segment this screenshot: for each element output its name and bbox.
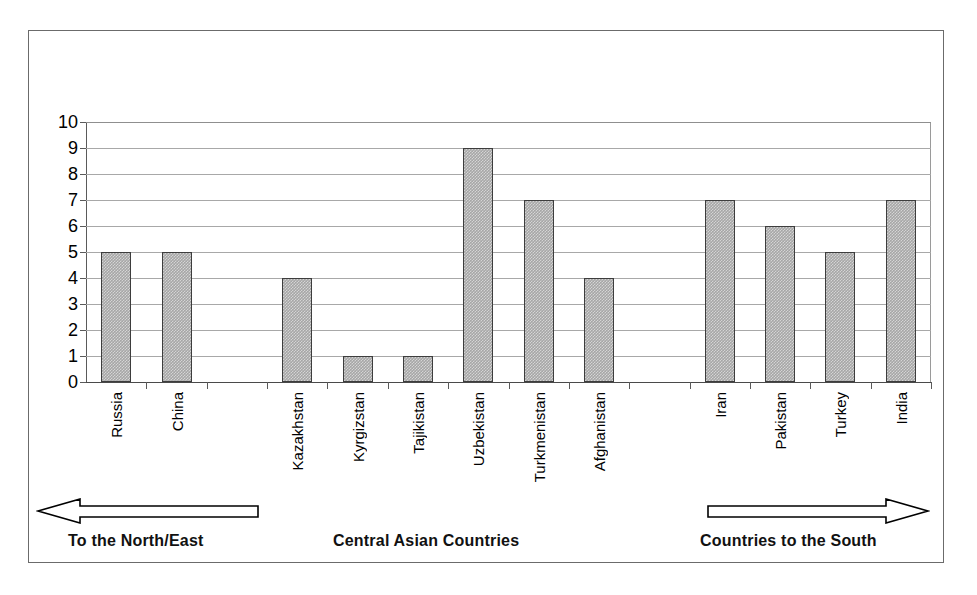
- x-axis-tick: [267, 382, 268, 389]
- chart-page: 10 9 8 7 6 5 4 3 2 1 0 RussiaChinaKazakh…: [0, 0, 977, 595]
- x-axis-tick: [146, 382, 147, 389]
- gridline: [86, 356, 931, 357]
- arrow-right-icon: [706, 498, 930, 524]
- bar: [343, 356, 373, 382]
- bar: [162, 252, 192, 382]
- y-tick-label: 7: [44, 191, 78, 209]
- bar: [584, 278, 614, 382]
- bar: [886, 200, 916, 382]
- gridline: [86, 278, 931, 279]
- bar: [825, 252, 855, 382]
- x-axis-category-label: Kazakhstan: [289, 392, 306, 470]
- y-tick-label: 9: [44, 139, 78, 157]
- x-axis-category-label: Turkey: [832, 392, 849, 437]
- plot-area: [86, 122, 931, 382]
- x-axis-tick: [569, 382, 570, 389]
- bar: [101, 252, 131, 382]
- x-axis-tick: [509, 382, 510, 389]
- bar: [524, 200, 554, 382]
- bar: [705, 200, 735, 382]
- gridline: [86, 330, 931, 331]
- gridline: [86, 226, 931, 227]
- x-axis-category-label: China: [169, 392, 186, 431]
- x-axis-category-label: Russia: [108, 392, 125, 438]
- arrow-left-icon: [36, 498, 260, 524]
- y-tick-label: 10: [44, 113, 78, 131]
- y-tick-label: 0: [44, 373, 78, 391]
- x-axis-tick: [207, 382, 208, 389]
- annotation-label-south: Countries to the South: [700, 532, 877, 550]
- bar: [282, 278, 312, 382]
- x-axis-tick: [931, 382, 932, 389]
- x-axis-category-label: Iran: [712, 392, 729, 418]
- annotation-label-north-east: To the North/East: [68, 532, 204, 550]
- gridline: [86, 200, 931, 201]
- x-axis-tick: [871, 382, 872, 389]
- x-axis-category-label: Kyrgizstan: [350, 392, 367, 462]
- bar: [403, 356, 433, 382]
- x-axis-category-label: Tajikistan: [410, 392, 427, 454]
- x-axis-tick: [629, 382, 630, 389]
- y-tick-label: 3: [44, 295, 78, 313]
- x-axis-tick: [690, 382, 691, 389]
- gridline: [86, 252, 931, 253]
- x-axis-tick: [388, 382, 389, 389]
- y-tick-label: 1: [44, 347, 78, 365]
- gridline: [86, 174, 931, 175]
- x-axis-category-label: Pakistan: [772, 392, 789, 450]
- bar: [463, 148, 493, 382]
- y-tick-label: 8: [44, 165, 78, 183]
- gridline: [86, 122, 931, 123]
- y-tick-label: 5: [44, 243, 78, 261]
- x-axis-tick: [327, 382, 328, 389]
- x-axis-category-label: Turkmenistan: [531, 392, 548, 482]
- y-tick-label: 2: [44, 321, 78, 339]
- x-axis-category-label: Uzbekistan: [470, 392, 487, 466]
- bar: [765, 226, 795, 382]
- x-axis-category-label: India: [893, 392, 910, 425]
- gridline: [86, 304, 931, 305]
- x-axis-tick: [448, 382, 449, 389]
- x-axis-tick: [750, 382, 751, 389]
- y-tick-label: 4: [44, 269, 78, 287]
- x-axis-tick: [810, 382, 811, 389]
- y-tick-label: 6: [44, 217, 78, 235]
- annotation-label-central-asia: Central Asian Countries: [333, 532, 519, 550]
- x-axis-category-label: Afghanistan: [591, 392, 608, 471]
- gridline: [86, 148, 931, 149]
